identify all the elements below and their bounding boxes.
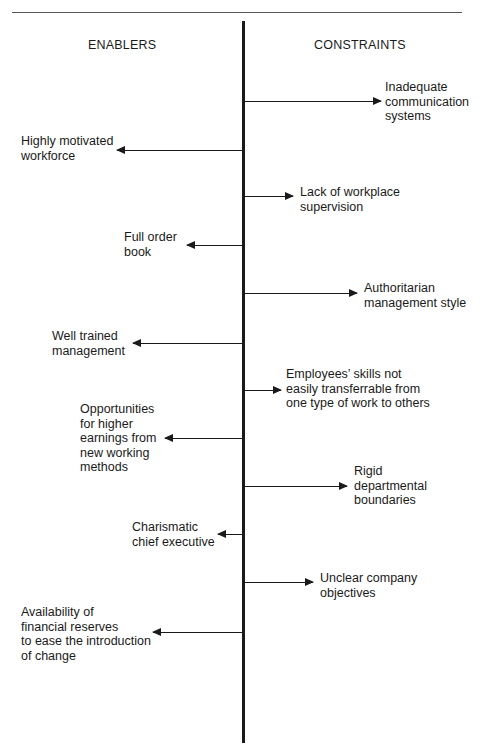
arrow-right-icon	[245, 582, 313, 583]
constraint-label: Authoritarian management style	[364, 281, 466, 310]
enabler-label: Well trained management	[52, 329, 125, 358]
enabler-label: Opportunities for higher earnings from n…	[80, 402, 156, 475]
enablers-heading: ENABLERS	[88, 38, 156, 52]
central-axis-line	[242, 21, 245, 743]
enabler-label: Highly motivated workforce	[21, 134, 113, 163]
enabler-label: Availability of financial reserves to ea…	[21, 605, 151, 663]
arrow-right-icon	[245, 101, 381, 102]
constraint-label: Inadequate communication systems	[385, 80, 469, 124]
arrow-right-icon	[245, 196, 293, 197]
top-rule	[12, 12, 462, 13]
arrow-left-icon	[165, 438, 242, 439]
arrow-left-icon	[153, 632, 242, 633]
enabler-label: Charismatic chief executive	[132, 520, 215, 549]
constraints-heading: CONSTRAINTS	[314, 38, 406, 52]
constraint-label: Employees’ skills not easily transferrab…	[286, 367, 430, 411]
arrow-left-icon	[218, 534, 242, 535]
enabler-label: Full order book	[124, 230, 177, 259]
constraint-label: Unclear company objectives	[320, 571, 417, 600]
arrow-left-icon	[133, 343, 242, 344]
arrow-left-icon	[187, 245, 242, 246]
constraint-label: Rigid departmental boundaries	[354, 464, 427, 508]
arrow-right-icon	[245, 486, 347, 487]
arrow-left-icon	[117, 150, 242, 151]
arrow-right-icon	[245, 293, 357, 294]
constraint-label: Lack of workplace supervision	[300, 185, 400, 214]
arrow-right-icon	[245, 390, 281, 391]
